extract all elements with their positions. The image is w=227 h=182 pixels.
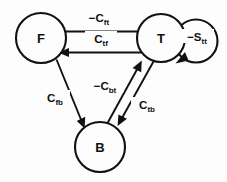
edge-label-b-to-t: −Cbt [86, 78, 124, 95]
node-t-label: T [157, 31, 165, 46]
node-b[interactable]: B [75, 122, 125, 172]
edge-label-t-to-b: Ctb [131, 97, 163, 114]
edge-label-f-to-b: Cfb [40, 90, 70, 107]
node-f[interactable]: F [16, 13, 66, 63]
node-b-label: B [95, 140, 104, 155]
edge-label-t-to-f: Ctf [85, 31, 117, 48]
graph-svg: F T B −Cft Ctf Cfb [0, 0, 227, 182]
node-f-label: F [37, 31, 45, 46]
node-t[interactable]: T [137, 14, 185, 62]
diagram-canvas: F T B −Cft Ctf Cfb [0, 0, 227, 182]
edge-label-f-to-t: −Cft [80, 11, 118, 28]
